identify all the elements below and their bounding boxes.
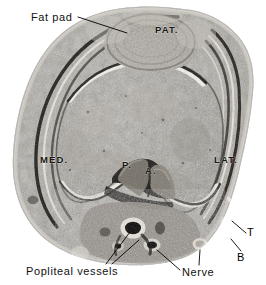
label-biceps-b: B: [237, 252, 245, 263]
label-lateral-condyle: LAT.: [214, 155, 238, 165]
anatomical-figure: Fat pad Popliteal vessels Nerve T B PAT.…: [0, 0, 266, 285]
label-popliteal-vessels: Popliteal vessels: [26, 266, 118, 277]
label-anterior-cruciate: A.: [145, 166, 157, 176]
label-medial-condyle: MED.: [40, 155, 68, 165]
label-nerve: Nerve: [182, 267, 214, 278]
label-fat-pad: Fat pad: [31, 12, 73, 23]
label-tendon-t: T: [247, 227, 254, 238]
label-patella: PAT.: [155, 25, 179, 35]
knee-cross-section-photograph: [0, 0, 266, 285]
label-posterior-cruciate: P.: [122, 160, 132, 170]
